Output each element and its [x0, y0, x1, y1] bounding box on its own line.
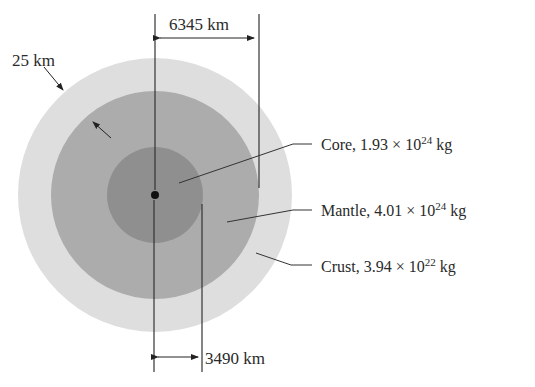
- mantle-label: Mantle, 4.01 × 1024 kg: [321, 203, 466, 219]
- crust-thickness-label: 25 km: [12, 52, 55, 69]
- crust-label-text: Crust, 3.94 × 10: [321, 258, 425, 275]
- core-label-exponent: 24: [421, 134, 432, 146]
- crust-label-unit: kg: [436, 258, 456, 275]
- earth-layers-diagram: [0, 0, 535, 387]
- core-radius-label: 3490 km: [205, 350, 265, 367]
- core-label-text: Core, 1.93 × 10: [321, 136, 421, 153]
- center-dot: [151, 191, 159, 199]
- crust-label: Crust, 3.94 × 1022 kg: [321, 259, 456, 275]
- mantle-label-text: Mantle, 4.01 × 10: [321, 202, 435, 219]
- crust-label-exponent: 22: [425, 256, 436, 268]
- crust-outer-arrow: [44, 67, 63, 90]
- mantle-label-unit: kg: [446, 202, 466, 219]
- core-label-unit: kg: [432, 136, 452, 153]
- outer-radius-label: 6345 km: [169, 16, 229, 33]
- core-label: Core, 1.93 × 1024 kg: [321, 137, 452, 153]
- mantle-label-exponent: 24: [435, 200, 446, 212]
